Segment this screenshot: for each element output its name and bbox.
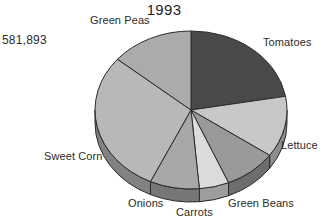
pie-chart-figure: 1993 581,893 Green Peas Tomatoes Lettuce… [0, 0, 328, 222]
slice-label-green-beans: Green Beans [228, 197, 294, 209]
slice-label-sweet-corn: Sweet Corn [44, 150, 102, 162]
pie-top-slices [95, 31, 287, 189]
slice-label-onions: Onions [128, 197, 163, 209]
slice-label-tomatoes: Tomatoes [263, 36, 312, 48]
pie-graphic [0, 0, 328, 222]
slice-label-green-peas: Green Peas [90, 14, 150, 26]
slice-label-lettuce: Lettuce [281, 139, 318, 151]
slice-label-carrots: Carrots [176, 206, 213, 218]
